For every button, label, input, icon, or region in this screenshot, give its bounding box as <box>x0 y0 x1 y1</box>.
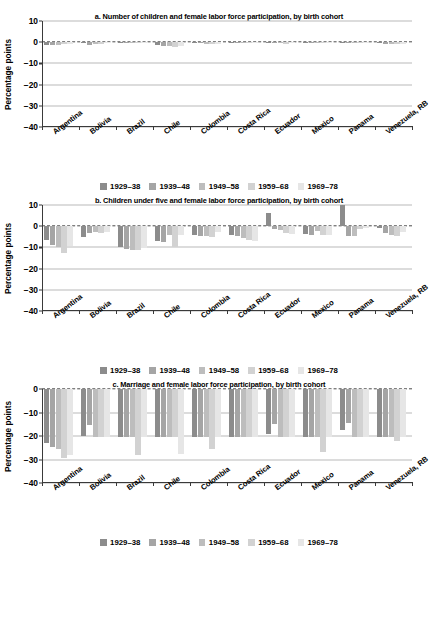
panel-a-x-labels: ArgentinaBoliviaBrazilChileColombiaCosta… <box>42 127 412 179</box>
bar <box>309 42 314 43</box>
y-tick-label: −10 <box>24 242 38 252</box>
y-tick-label: −30 <box>24 455 38 465</box>
legend-label: 1939–48 <box>159 538 189 547</box>
bar <box>377 389 382 437</box>
bar <box>315 389 320 437</box>
bar <box>252 226 257 241</box>
bar-group <box>79 205 116 311</box>
bar <box>383 389 388 437</box>
bar <box>394 42 399 44</box>
bar <box>357 226 362 229</box>
y-tick-label: −20 <box>24 431 38 441</box>
legend-item: 1939–48 <box>149 538 189 547</box>
legend-b: 1929–381939–481949–581959–681969–78 <box>0 363 420 378</box>
bar <box>326 226 331 235</box>
bar <box>50 42 55 45</box>
bar-group <box>153 205 190 311</box>
y-tick-label: 0 <box>33 37 38 47</box>
bar <box>87 389 92 425</box>
panel-b-x-labels: ArgentinaBoliviaBrazilChileColombiaCosta… <box>42 311 412 363</box>
bar <box>377 42 382 43</box>
bar <box>215 42 220 43</box>
bar <box>246 42 251 43</box>
panel-a-y-ticks: 100−10−20−30−40 <box>14 21 40 127</box>
legend-label: 1949–58 <box>209 182 239 191</box>
bar <box>283 389 288 437</box>
y-tick-label: −10 <box>24 408 38 418</box>
bar <box>229 389 234 437</box>
bar <box>246 226 251 240</box>
bar <box>104 226 109 232</box>
panel-a-y-axis-label: Percentage points <box>2 21 14 127</box>
legend-label: 1949–58 <box>209 538 239 547</box>
bar <box>172 226 177 246</box>
bar <box>118 389 123 437</box>
bar <box>81 226 86 237</box>
bar <box>241 389 246 437</box>
x-tick-mark <box>412 126 413 130</box>
legend-label: 1969–78 <box>308 182 338 191</box>
bar <box>130 42 135 43</box>
bar <box>118 42 123 43</box>
y-tick-label: −20 <box>24 80 38 90</box>
bar <box>352 389 357 437</box>
bar <box>93 226 98 232</box>
y-tick-label: 0 <box>33 221 38 231</box>
legend-swatch <box>100 367 107 374</box>
legend-swatch <box>298 367 305 374</box>
bar <box>278 226 283 229</box>
bar <box>124 226 129 248</box>
bar <box>315 226 320 231</box>
bar <box>272 389 277 424</box>
bar <box>235 226 240 235</box>
bar-group <box>301 389 338 483</box>
legend-item: 1949–58 <box>199 366 239 375</box>
panel-a: a. Number of children and female labor f… <box>0 0 420 179</box>
bar <box>167 226 172 234</box>
bar <box>326 42 331 43</box>
bar <box>44 226 49 240</box>
legend-item: 1959–68 <box>248 538 288 547</box>
bar <box>235 42 240 43</box>
bar <box>172 42 177 46</box>
bar <box>363 42 368 43</box>
legend-label: 1959–68 <box>258 366 288 375</box>
bar <box>87 42 92 44</box>
bar <box>309 226 314 235</box>
panel-b: b. Children under five and female labor … <box>0 194 420 363</box>
bar <box>81 42 86 43</box>
bar <box>56 226 61 246</box>
bar <box>289 42 294 43</box>
bar <box>198 42 203 43</box>
bar <box>315 42 320 43</box>
legend-a: 1929–381939–481949–581959–681969–78 <box>0 179 420 194</box>
bar <box>303 389 308 437</box>
bar <box>229 226 234 234</box>
bar <box>400 226 405 232</box>
legend-swatch <box>199 183 206 190</box>
bar <box>61 389 66 458</box>
legend-item: 1969–78 <box>298 538 338 547</box>
bar <box>198 226 203 236</box>
legend-swatch <box>149 539 156 546</box>
bar <box>98 389 103 437</box>
bar-group <box>153 21 190 127</box>
bar <box>67 42 72 44</box>
legend-label: 1939–48 <box>159 366 189 375</box>
legend-item: 1969–78 <box>298 366 338 375</box>
bar-group <box>301 21 338 127</box>
panel-c-plot: Percentage points 0−10−20−30−40 <box>0 389 420 483</box>
bar <box>204 389 209 437</box>
bar <box>130 389 135 437</box>
bar <box>81 389 86 436</box>
legend-label: 1929–38 <box>110 366 140 375</box>
bar <box>161 42 166 45</box>
bar <box>346 389 351 423</box>
bar <box>192 42 197 43</box>
bar <box>167 42 172 46</box>
bar <box>278 389 283 437</box>
panel-c: c. Marriage and female labor force parti… <box>0 378 420 535</box>
bar <box>303 226 308 234</box>
legend-label: 1949–58 <box>209 366 239 375</box>
bar <box>124 389 129 437</box>
